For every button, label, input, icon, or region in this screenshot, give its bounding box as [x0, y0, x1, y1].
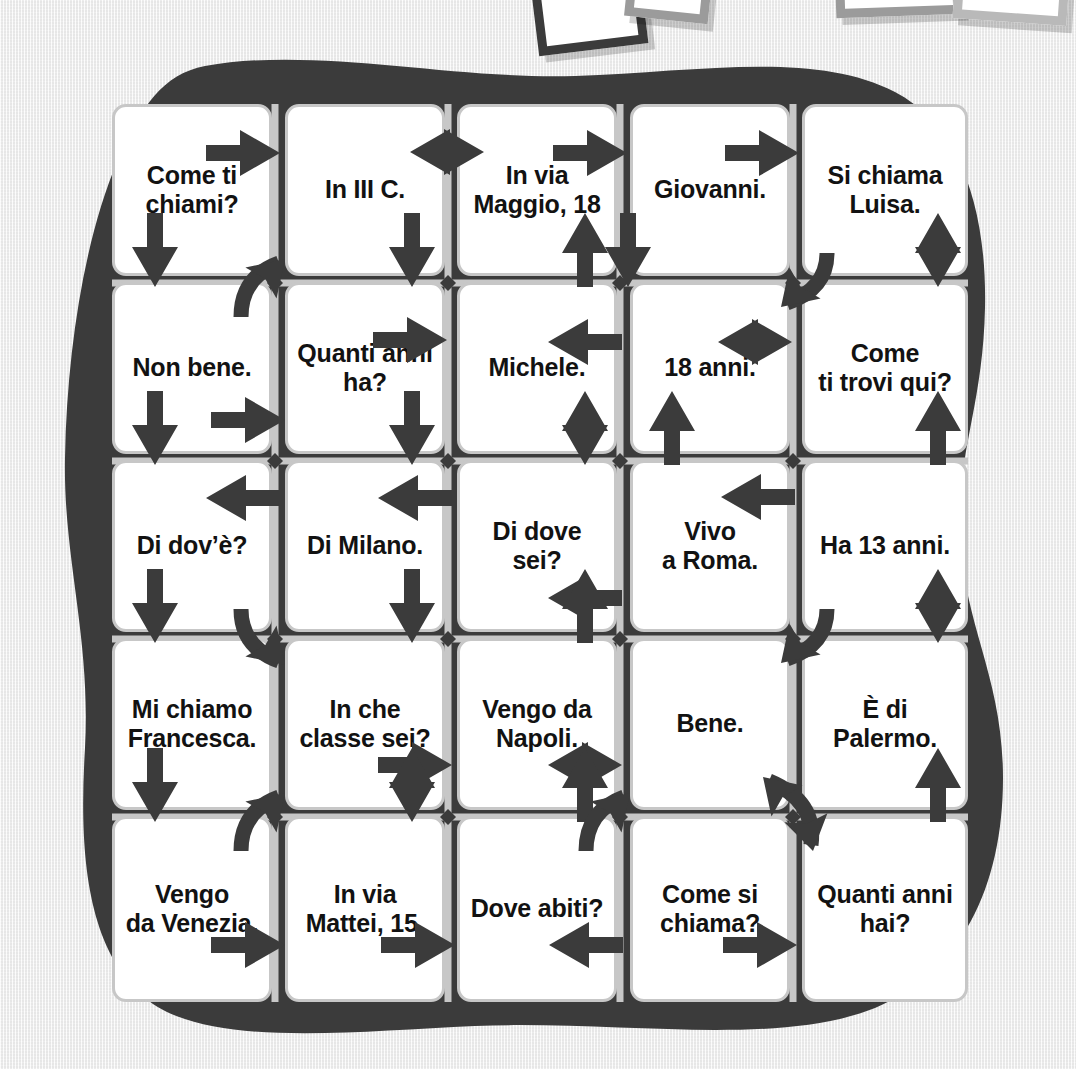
grid-cell-line: a Roma.: [662, 546, 758, 576]
grid-cell-line: È di: [833, 695, 937, 725]
grid-cell-r4c1[interactable]: Mi chiamoFrancesca.: [112, 638, 272, 810]
grid-cell-line: In che: [299, 695, 430, 725]
grid-cell-r4c5[interactable]: È diPalermo.: [802, 638, 968, 810]
grid-cell-line: Quanti anni: [817, 880, 952, 910]
grid-cell-text: Vengoda Venezia.: [126, 880, 259, 939]
grid-cell-line: Napoli.: [482, 724, 592, 754]
grid-cell-line: Dove abiti?: [471, 894, 604, 924]
grid-cell-line: Vivo: [662, 517, 758, 547]
grid-cell-line: In via: [306, 880, 425, 910]
grid-cell-line: Di dove sei?: [466, 517, 608, 576]
grid-cell-text: Bene.: [676, 709, 743, 739]
grid-cell-r1c4[interactable]: Giovanni.: [630, 104, 790, 276]
grid-cell-line: Si chiama: [828, 161, 943, 191]
grid-cell-line: chiama?: [660, 909, 760, 939]
grid-cell-text: 18 anni.: [664, 353, 756, 383]
grid-cell-line: Quanti anni: [297, 339, 432, 369]
grid-cell-r2c5[interactable]: Cometi trovi qui?: [802, 282, 968, 454]
grid-cell-text: Vengo daNapoli.: [482, 695, 592, 754]
grid-cell-line: Luisa.: [828, 190, 943, 220]
grid-cell-r5c4[interactable]: Come sichiama?: [630, 816, 790, 1002]
grid-cell-text: Vivoa Roma.: [662, 517, 758, 576]
grid-cell-text: Cometi trovi qui?: [818, 339, 952, 398]
grid-cell-text: Di dov’è?: [137, 531, 248, 561]
grid-cell-line: Ha 13 anni.: [820, 531, 950, 561]
grid-cell-line: Francesca.: [128, 724, 257, 754]
grid-cell-line: Giovanni.: [654, 175, 766, 205]
grid-cell-line: Come si: [660, 880, 760, 910]
grid-cell-text: Come sichiama?: [660, 880, 760, 939]
grid-cell-r4c4[interactable]: Bene.: [630, 638, 790, 810]
grid-cell-line: Michele.: [488, 353, 585, 383]
grid-cell-r5c3[interactable]: Dove abiti?: [457, 816, 617, 1002]
grid-cell-line: Vengo: [126, 880, 259, 910]
grid-cell-text: Non bene.: [132, 353, 251, 383]
grid-cell-line: 18 anni.: [664, 353, 756, 383]
grid-cell-text: Quanti anniha?: [297, 339, 432, 398]
grid-cell-line: Non bene.: [132, 353, 251, 383]
grid-cell-line: Palermo.: [833, 724, 937, 754]
grid-cell-r3c3[interactable]: Di dove sei?: [457, 460, 617, 632]
conversation-grid: Come tichiami?In III C.In viaMaggio, 18G…: [112, 104, 968, 1002]
grid-cell-text: Giovanni.: [654, 175, 766, 205]
grid-cell-r3c5[interactable]: Ha 13 anni.: [802, 460, 968, 632]
grid-cell-r5c5[interactable]: Quanti annihai?: [802, 816, 968, 1002]
grid-cell-text: Di dove sei?: [466, 517, 608, 576]
grid-cell-line: Di dov’è?: [137, 531, 248, 561]
grid-cell-line: In III C.: [325, 175, 405, 205]
grid-cell-text: È diPalermo.: [833, 695, 937, 754]
grid-cell-text: In III C.: [325, 175, 405, 205]
grid-cell-text: In viaMaggio, 18: [473, 161, 600, 220]
grid-cell-r3c1[interactable]: Di dov’è?: [112, 460, 272, 632]
grid-cell-text: In checlasse sei?: [299, 695, 430, 754]
grid-cell-text: Mi chiamoFrancesca.: [128, 695, 257, 754]
grid-cell-text: Ha 13 anni.: [820, 531, 950, 561]
grid-cell-line: Mi chiamo: [128, 695, 257, 725]
grid-cell-r3c4[interactable]: Vivoa Roma.: [630, 460, 790, 632]
grid-cell-r3c2[interactable]: Di Milano.: [285, 460, 445, 632]
grid-cell-line: Maggio, 18: [473, 190, 600, 220]
grid-cell-r2c4[interactable]: 18 anni.: [630, 282, 790, 454]
grid-cell-line: Di Milano.: [307, 531, 423, 561]
grid-cell-line: In via: [473, 161, 600, 191]
grid-cell-line: Come ti: [145, 161, 238, 191]
grid-cell-r4c3[interactable]: Vengo daNapoli.: [457, 638, 617, 810]
grid-cell-r5c1[interactable]: Vengoda Venezia.: [112, 816, 272, 1002]
grid-cell-text: Come tichiami?: [145, 161, 238, 220]
grid-cell-r1c3[interactable]: In viaMaggio, 18: [457, 104, 617, 276]
grid-cell-line: da Venezia.: [126, 909, 259, 939]
grid-cell-r1c2[interactable]: In III C.: [285, 104, 445, 276]
grid-cell-r2c3[interactable]: Michele.: [457, 282, 617, 454]
grid-cell-line: chiami?: [145, 190, 238, 220]
grid-cell-text: Quanti annihai?: [817, 880, 952, 939]
grid-cell-r2c1[interactable]: Non bene.: [112, 282, 272, 454]
grid-cell-text: In viaMattei, 15.: [306, 880, 425, 939]
grid-cell-r1c5[interactable]: Si chiamaLuisa.: [802, 104, 968, 276]
grid-cell-line: ti trovi qui?: [818, 368, 952, 398]
grid-cell-line: Vengo da: [482, 695, 592, 725]
grid-cell-line: Come: [818, 339, 952, 369]
grid-cell-line: classe sei?: [299, 724, 430, 754]
grid-cell-r5c2[interactable]: In viaMattei, 15.: [285, 816, 445, 1002]
grid-cell-line: Mattei, 15.: [306, 909, 425, 939]
grid-cell-line: hai?: [817, 909, 952, 939]
grid-cell-r2c2[interactable]: Quanti anniha?: [285, 282, 445, 454]
grid-cell-text: Di Milano.: [307, 531, 423, 561]
grid-cell-text: Si chiamaLuisa.: [828, 161, 943, 220]
grid-cell-r1c1[interactable]: Come tichiami?: [112, 104, 272, 276]
grid-cell-line: Bene.: [676, 709, 743, 739]
grid-cell-line: ha?: [297, 368, 432, 398]
grid-cell-text: Michele.: [488, 353, 585, 383]
grid-cell-text: Dove abiti?: [471, 894, 604, 924]
grid-cell-r4c2[interactable]: In checlasse sei?: [285, 638, 445, 810]
